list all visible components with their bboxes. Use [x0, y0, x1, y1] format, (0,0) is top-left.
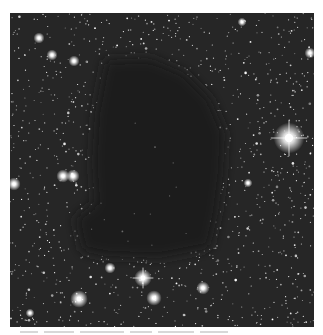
starfield-image	[10, 13, 314, 327]
nebula-photo	[10, 13, 314, 327]
caption-clipped	[20, 331, 240, 335]
